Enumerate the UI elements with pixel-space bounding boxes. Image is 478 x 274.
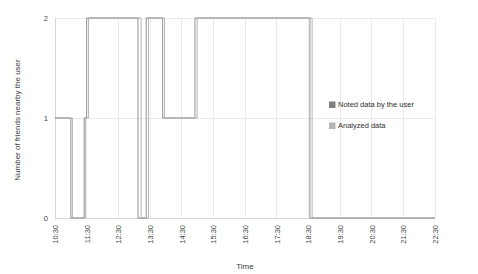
x-tick-label: 19:30	[336, 225, 345, 244]
x-tick-label: 15:30	[209, 225, 218, 244]
y-tick-label: 0	[44, 214, 48, 223]
x-tick-label: 21:30	[399, 225, 408, 244]
x-tick-label: 12:30	[114, 225, 123, 244]
legend-label: Analyzed data	[338, 121, 386, 130]
chart-container: 012 10:3011:3012:3013:3014:3015:3016:301…	[0, 0, 478, 274]
x-axis-title: Time	[236, 262, 254, 271]
legend-swatch	[329, 102, 336, 109]
x-tick-label: 17:30	[273, 225, 282, 244]
gridlines	[55, 18, 435, 218]
x-axis-tick-labels: 10:3011:3012:3013:3014:3015:3016:3017:30…	[51, 225, 440, 244]
x-tick-label: 22:30	[431, 225, 440, 244]
y-tick-label: 1	[44, 114, 48, 123]
y-axis-title: Number of friends nearby the user	[13, 59, 22, 181]
legend-swatch	[329, 123, 336, 130]
y-tick-label: 2	[44, 14, 48, 23]
x-tick-label: 18:30	[304, 225, 313, 244]
legend-label: Noted data by the user	[338, 100, 414, 109]
y-axis-tick-labels: 012	[44, 14, 48, 223]
x-tick-label: 11:30	[83, 225, 92, 243]
x-tick-label: 16:30	[241, 225, 250, 244]
x-tick-label: 13:30	[146, 225, 155, 244]
line-chart: 012 10:3011:3012:3013:3014:3015:3016:301…	[0, 0, 478, 274]
x-tick-label: 14:30	[178, 225, 187, 244]
x-tick-label: 10:30	[51, 225, 60, 244]
x-tick-label: 20:30	[368, 225, 377, 244]
